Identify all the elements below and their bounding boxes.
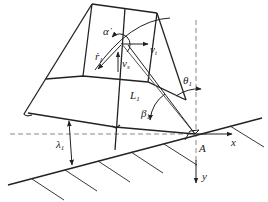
y-axis-label: y xyxy=(201,170,207,182)
alpha-dot-rotation-arc xyxy=(112,34,130,52)
alpha-dot-label: α̇ xyxy=(103,25,113,37)
ground-line xyxy=(8,118,262,185)
ground-hatching xyxy=(32,126,264,200)
L1-parallel-line xyxy=(128,45,195,134)
hull xyxy=(28,4,195,150)
beta-label: β1 xyxy=(140,107,150,121)
theta-label: θ1 xyxy=(183,74,192,88)
vt-label: vt xyxy=(150,43,158,57)
lambda-arrow xyxy=(69,121,72,165)
point-A-label: A xyxy=(198,142,206,154)
lambda-label: λ1 xyxy=(55,138,64,152)
L1-label: L1 xyxy=(129,89,140,103)
diagram-canvas: α̇ ṙ1 vt vs L1 θ1 β1 λ1 A x y xyxy=(0,0,268,202)
beta-arc xyxy=(150,94,165,120)
x-axis-label: x xyxy=(230,136,236,148)
theta-arc xyxy=(176,89,201,96)
r-dot-label: ṙ1 xyxy=(95,50,103,64)
vs-label: vs xyxy=(122,57,130,71)
